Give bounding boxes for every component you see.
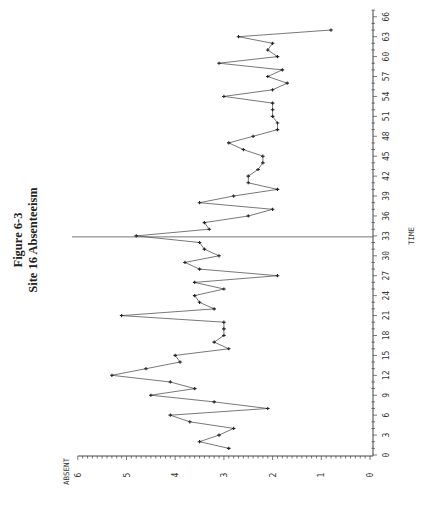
x-tick-label: 6 — [382, 413, 391, 418]
x-tick-label: 66 — [382, 12, 391, 22]
data-point-marker — [188, 420, 192, 423]
data-point-marker — [227, 447, 231, 450]
data-point-marker — [120, 314, 124, 317]
data-point-marker — [217, 433, 221, 436]
x-tick-label: 27 — [382, 271, 391, 281]
data-point-marker — [232, 427, 236, 430]
y-tick-label: 0 — [366, 472, 375, 477]
data-point-marker — [266, 407, 270, 410]
data-point-marker — [193, 387, 197, 390]
y-tick-label: 2 — [269, 472, 278, 477]
y-tick-label: 5 — [123, 472, 132, 477]
data-point-marker — [212, 400, 216, 403]
chart-title: Figure 6-3 — [11, 213, 25, 268]
x-tick-label: 3 — [382, 432, 391, 437]
data-point-marker — [227, 347, 231, 350]
data-point-marker — [227, 141, 231, 144]
data-point-marker — [276, 128, 280, 131]
x-tick-label: 54 — [382, 91, 391, 101]
data-point-marker — [329, 28, 333, 31]
data-point-marker — [237, 35, 241, 38]
data-point-marker — [212, 307, 216, 310]
data-point-marker — [246, 214, 250, 217]
data-point-marker — [217, 62, 221, 65]
axes: 0123456036912151821242730333639424548515… — [74, 10, 391, 477]
data-point-marker — [266, 75, 270, 78]
data-point-marker — [198, 440, 202, 443]
chart-subtitle: Site 16 Absenteeism — [26, 187, 40, 293]
x-tick-label: 39 — [382, 191, 391, 201]
data-point-marker — [261, 155, 265, 158]
x-tick-label: 48 — [382, 131, 391, 141]
x-tick-label: 45 — [382, 151, 391, 161]
data-point-marker — [271, 88, 275, 91]
data-point-marker — [144, 367, 148, 370]
x-tick-label: 30 — [382, 251, 391, 261]
x-tick-label: 18 — [382, 330, 391, 340]
data-point-marker — [251, 135, 255, 138]
line-chart: Figure 6-3 Site 16 Absenteeism 012345603… — [0, 0, 430, 524]
data-point-marker — [276, 188, 280, 191]
data-point-marker — [149, 394, 153, 397]
x-tick-label: 12 — [382, 370, 391, 380]
x-tick-label: 63 — [382, 32, 391, 42]
y-tick-label: 3 — [220, 472, 229, 477]
y-axis-title: ABSENT — [62, 457, 71, 485]
data-point-marker — [222, 287, 226, 290]
data-point-marker — [169, 380, 173, 383]
x-tick-label: 9 — [382, 393, 391, 398]
x-axis-title: TIME — [407, 226, 416, 245]
data-point-marker — [242, 148, 246, 151]
y-tick-label: 6 — [74, 472, 83, 477]
data-point-marker — [217, 254, 221, 257]
data-point-marker — [276, 274, 280, 277]
chart-title-group: Figure 6-3 Site 16 Absenteeism — [11, 187, 40, 293]
data-point-marker — [198, 267, 202, 270]
data-point-marker — [183, 261, 187, 264]
x-tick-label: 0 — [382, 452, 391, 457]
x-tick-label: 24 — [382, 291, 391, 301]
y-tick-label: 1 — [317, 472, 326, 477]
x-tick-label: 60 — [382, 52, 391, 62]
x-tick-label: 42 — [382, 171, 391, 181]
x-tick-label: 57 — [382, 72, 391, 82]
data-point-marker — [169, 414, 173, 417]
x-tick-label: 21 — [382, 311, 391, 321]
data-point-marker — [271, 208, 275, 211]
data-series — [110, 28, 333, 450]
data-point-marker — [222, 321, 226, 324]
x-tick-label: 36 — [382, 211, 391, 221]
data-point-marker — [193, 281, 197, 284]
data-point-marker — [222, 95, 226, 98]
data-point-marker — [222, 327, 226, 330]
data-point-marker — [246, 181, 250, 184]
data-point-marker — [271, 108, 275, 111]
data-point-marker — [232, 194, 236, 197]
y-tick-label: 4 — [171, 472, 180, 477]
data-point-marker — [110, 374, 114, 377]
data-point-marker — [271, 101, 275, 104]
x-tick-label: 33 — [382, 231, 391, 241]
data-point-marker — [281, 68, 285, 71]
data-point-marker — [198, 201, 202, 204]
data-point-marker — [285, 82, 289, 85]
x-tick-label: 51 — [382, 111, 391, 121]
x-tick-label: 15 — [382, 350, 391, 360]
